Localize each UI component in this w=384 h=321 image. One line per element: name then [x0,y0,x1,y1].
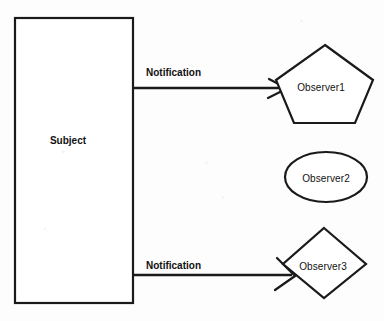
node-observer3-shape[interactable] [283,228,366,298]
node-subject-label: Subject [50,135,86,146]
edge-subject-observer1-label: Notification [146,67,201,78]
node-observer2-shape[interactable] [285,152,367,202]
node-observer1-shape[interactable] [276,45,373,123]
edge-subject-observer3-label: Notification [146,260,201,271]
diagram-svg [0,0,384,321]
diagram-canvas: Subject Observer1 Observer2 Observer3 No… [0,0,384,321]
node-subject-shape[interactable] [15,18,133,303]
